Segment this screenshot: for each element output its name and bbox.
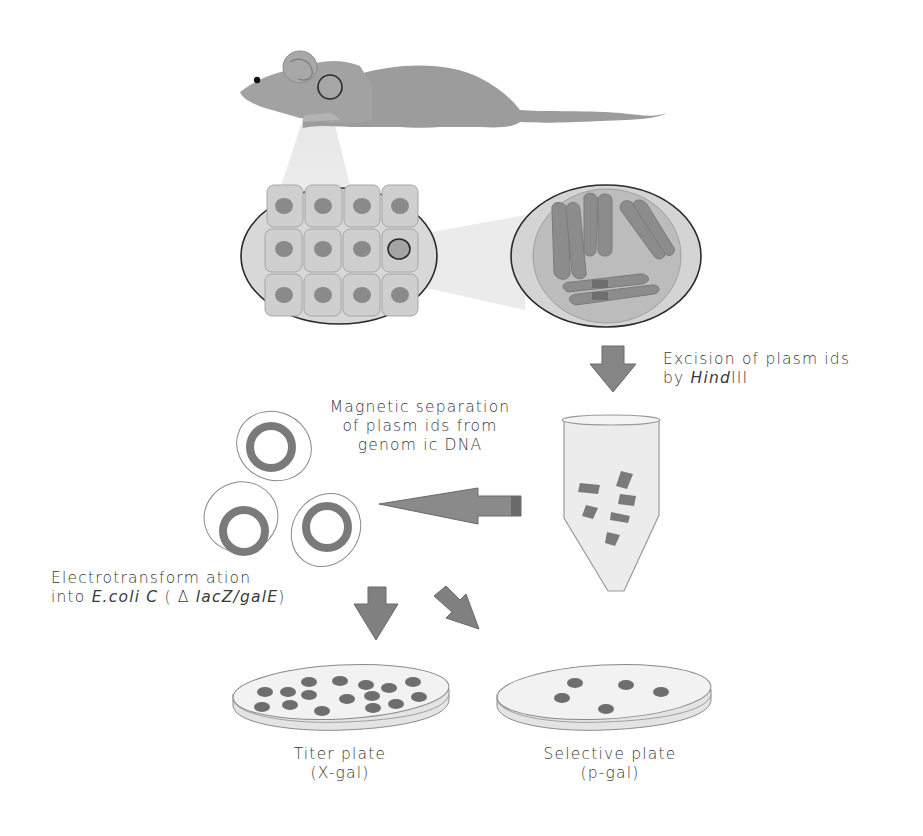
sampled-region-marker bbox=[318, 75, 342, 99]
transformation-label-line1: Electrotransform ation bbox=[51, 569, 285, 588]
selective-plate-label-line2: (p-gal) bbox=[520, 764, 700, 783]
enzyme-suffix: III bbox=[731, 369, 748, 387]
separation-label-line3: genom ic DNA bbox=[300, 436, 540, 455]
excision-label-line2: by HindIII bbox=[663, 369, 850, 388]
tube-illustration bbox=[562, 415, 660, 591]
into-text: into bbox=[51, 588, 92, 606]
excision-label: Excision of plasm ids by HindIII bbox=[663, 350, 850, 388]
mouse-ear bbox=[283, 51, 317, 83]
arrow-left-separation bbox=[379, 488, 521, 524]
separation-label: Magnetic separation of plasm ids from ge… bbox=[300, 398, 540, 455]
strain-name-italic: E.coli C bbox=[92, 588, 159, 606]
tissue-cells-illustration bbox=[241, 185, 437, 324]
transformation-label-line2: into E.coli C ( Δ lacZ/galE) bbox=[51, 588, 285, 607]
titer-plate-label-line1: Titer plate bbox=[260, 745, 420, 764]
separation-label-line1: Magnetic separation bbox=[300, 398, 540, 417]
selective-plate-illustration bbox=[496, 659, 713, 730]
excision-by-text: by bbox=[663, 369, 691, 387]
mouse-illustration bbox=[240, 51, 666, 128]
chromosomes-illustration bbox=[511, 185, 701, 327]
titer-plate-illustration bbox=[232, 659, 451, 730]
arrow-down-excision bbox=[590, 346, 636, 392]
excision-label-line1: Excision of plasm ids bbox=[663, 350, 850, 369]
transformation-label: Electrotransform ation into E.coli C ( Δ… bbox=[51, 569, 285, 607]
separation-label-line2: of plasm ids from bbox=[300, 417, 540, 436]
delta-text: ( Δ bbox=[158, 588, 195, 606]
arrow-down-titer bbox=[354, 587, 398, 640]
titer-plate-label: Titer plate (X-gal) bbox=[260, 745, 420, 783]
arrow-diagonal-selective bbox=[434, 586, 479, 629]
selected-nucleus bbox=[388, 239, 410, 259]
genotype-italic: lacZ/galE bbox=[196, 588, 278, 606]
close-paren: ) bbox=[278, 588, 285, 606]
mouse-eye bbox=[254, 77, 260, 83]
selective-plate-label-line1: Selective plate bbox=[520, 745, 700, 764]
enzyme-name-italic: Hind bbox=[691, 369, 731, 387]
titer-plate-label-line2: (X-gal) bbox=[260, 764, 420, 783]
selective-plate-label: Selective plate (p-gal) bbox=[520, 745, 700, 783]
